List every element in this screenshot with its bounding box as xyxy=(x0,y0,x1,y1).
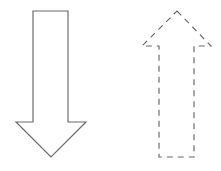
diagram-canvas xyxy=(0,0,221,171)
up-arrow-dashed xyxy=(142,11,211,157)
down-arrow-solid xyxy=(16,11,86,157)
